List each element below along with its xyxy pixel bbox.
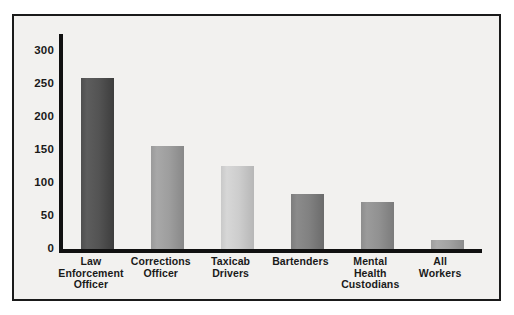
bar-slot bbox=[203, 34, 273, 249]
x-axis-line bbox=[59, 249, 482, 253]
y-tick-label: 300 bbox=[14, 45, 54, 57]
bar-slot bbox=[342, 34, 412, 249]
y-tick-label: 250 bbox=[14, 78, 54, 90]
bars-region bbox=[63, 34, 482, 249]
bar-chart-figure: 050100150200250300 LawEnforcementOfficer… bbox=[12, 14, 501, 301]
x-category-label: AllWorkers bbox=[398, 256, 482, 279]
bar-fill bbox=[291, 194, 324, 249]
bar-slot bbox=[273, 34, 343, 249]
bar-slot bbox=[412, 34, 482, 249]
bar-fill bbox=[151, 146, 184, 249]
x-category-label-line: Custodians bbox=[328, 279, 412, 291]
bar[interactable] bbox=[221, 166, 254, 249]
bar[interactable] bbox=[361, 202, 394, 249]
bar[interactable] bbox=[431, 240, 464, 249]
plot-area: 050100150200250300 LawEnforcementOfficer… bbox=[14, 16, 499, 299]
x-category-label-line: Drivers bbox=[189, 268, 273, 280]
x-category-label-line: Workers bbox=[398, 268, 482, 280]
x-category-label-line: All bbox=[398, 256, 482, 268]
bar-slot bbox=[133, 34, 203, 249]
y-tick-label: 150 bbox=[14, 144, 54, 156]
y-tick-label: 100 bbox=[14, 177, 54, 189]
bar-fill bbox=[221, 166, 254, 249]
y-tick-label: 200 bbox=[14, 111, 54, 123]
bar-slot bbox=[63, 34, 133, 249]
bar-fill bbox=[361, 202, 394, 249]
bar[interactable] bbox=[81, 78, 114, 249]
bar-fill bbox=[431, 240, 464, 249]
x-category-label-line: Officer bbox=[49, 279, 133, 291]
bar-fill bbox=[81, 78, 114, 249]
bar[interactable] bbox=[291, 194, 324, 249]
x-axis-category-labels: LawEnforcementOfficerCorrectionsOfficerT… bbox=[63, 256, 482, 302]
y-tick-label: 0 bbox=[14, 243, 54, 255]
bar[interactable] bbox=[151, 146, 184, 249]
y-tick-label: 50 bbox=[14, 210, 54, 222]
